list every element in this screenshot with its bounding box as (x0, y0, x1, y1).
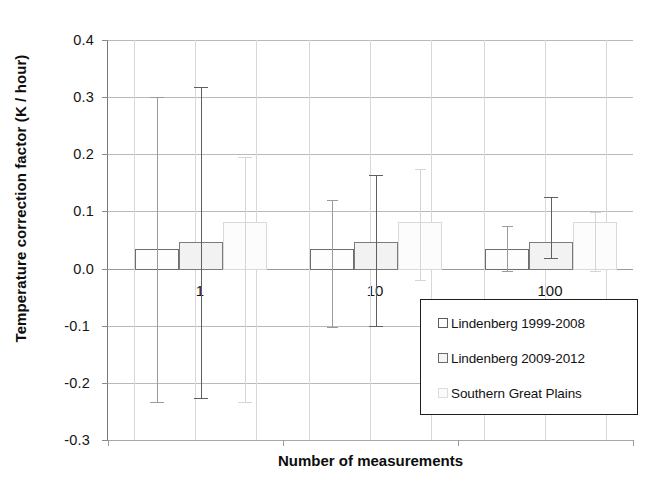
x-tick-mark-1 (283, 440, 284, 446)
errorbar-cap-bottom (327, 327, 338, 328)
legend-entry-1[interactable]: Lindenberg 2009-2012 (438, 349, 585, 367)
y-tick-label-3: 0.1 (46, 203, 94, 219)
y-tick-mark-3 (102, 211, 108, 212)
series-2-swatch-icon (438, 388, 448, 398)
x-tick-mark-2 (458, 440, 459, 446)
errorbar-stem (157, 97, 158, 403)
errorbar-cap-bottom (150, 402, 164, 403)
errorbar-cat1-series2 (235, 157, 255, 403)
errorbar-cat100-series2 (585, 212, 605, 272)
errorbar-stem (201, 87, 202, 399)
errorbar-cat1-series1 (191, 87, 211, 399)
x-axis-title: Number of measurements (108, 452, 633, 469)
errorbar-cap-top (194, 87, 208, 88)
errorbar-cat10-series2 (410, 169, 430, 281)
legend-entry-0[interactable]: Lindenberg 1999-2008 (438, 314, 585, 332)
x-axis-bottom-line (107, 440, 634, 441)
errorbar-cap-top (327, 200, 338, 201)
series-1-swatch-icon (438, 353, 448, 363)
legend-label-1: Lindenberg 2009-2012 (451, 351, 585, 366)
chart-legend: Lindenberg 1999-2008 Lindenberg 2009-201… (420, 299, 638, 415)
y-tick-label-5: -0.1 (42, 318, 90, 334)
errorbar-cap-bottom (238, 402, 252, 403)
errorbar-cat1-series0 (147, 97, 167, 403)
errorbar-cap-top (590, 212, 601, 213)
errorbar-cap-top (544, 197, 558, 198)
y-tick-label-6: -0.2 (42, 375, 90, 391)
errorbar-stem (376, 175, 377, 327)
errorbar-cat10-series0 (322, 200, 342, 328)
errorbar-cat100-series1 (541, 197, 561, 259)
y-tick-mark-2 (102, 154, 108, 155)
series-0-swatch-icon (438, 318, 448, 328)
y-tick-mark-1 (102, 97, 108, 98)
x-tick-mark-3 (633, 440, 634, 446)
y-tick-mark-6 (102, 383, 108, 384)
y-tick-label-0: 0.4 (46, 32, 94, 48)
y-tick-mark-0 (102, 40, 108, 41)
y-tick-mark-5 (102, 326, 108, 327)
errorbar-cap-bottom (590, 271, 601, 272)
y-axis-line (107, 40, 108, 440)
errorbar-cap-bottom (502, 271, 513, 272)
y-tick-label-2: 0.2 (46, 146, 94, 162)
errorbar-stem (245, 157, 246, 403)
errorbar-stem (332, 200, 333, 328)
legend-label-0: Lindenberg 1999-2008 (451, 316, 585, 331)
errorbar-cap-bottom (415, 280, 426, 281)
errorbar-cap-top (150, 97, 164, 98)
errorbar-cap-top (369, 175, 383, 176)
errorbar-cap-top (238, 157, 252, 158)
errorbar-cap-bottom (369, 326, 383, 327)
vgridline-group0-left (134, 40, 135, 440)
legend-entry-2[interactable]: Southern Great Plains (438, 384, 582, 402)
y-tick-label-1: 0.3 (46, 89, 94, 105)
y-tick-label-7: -0.3 (42, 432, 90, 448)
y-axis-title: Temperature correction factor (K / hour) (12, 0, 29, 479)
legend-label-2: Southern Great Plains (451, 386, 582, 401)
vgridline-group1-left (309, 40, 310, 440)
errorbar-cat10-series1 (366, 175, 386, 327)
errorbar-stem (551, 197, 552, 259)
errorbar-cat100-series0 (497, 226, 517, 272)
errorbar-stem (595, 212, 596, 272)
errorbar-cap-bottom (544, 258, 558, 259)
errorbar-stem (507, 226, 508, 272)
chart-figure: Temperature correction factor (K / hour)… (0, 0, 669, 481)
y-tick-mark-4 (102, 269, 108, 270)
y-tick-label-4: 0.0 (46, 261, 94, 277)
errorbar-cap-bottom (194, 398, 208, 399)
errorbar-cap-top (415, 169, 426, 170)
x-tick-mark-0 (108, 440, 109, 446)
errorbar-cap-top (502, 226, 513, 227)
errorbar-stem (420, 169, 421, 281)
